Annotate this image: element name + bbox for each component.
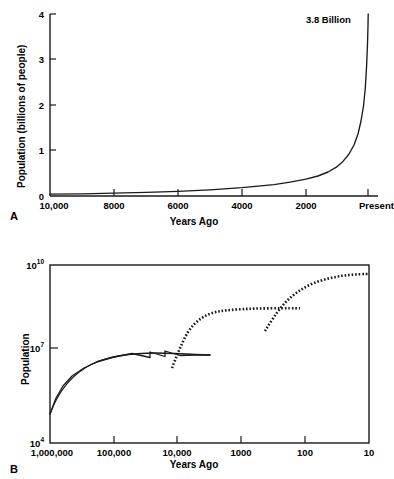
y-tick-label-a-2: 2 xyxy=(30,100,44,111)
hunter-gatherer-curve-b-smooth xyxy=(50,353,210,414)
x-tick-label-a-6000: 6000 xyxy=(167,200,188,211)
y-tick-base-b-1e10: 10 xyxy=(26,260,37,271)
agricultural-revolution-curve-b xyxy=(172,308,300,368)
x-axis-title-a: Years Ago xyxy=(0,216,388,227)
y-tick-label-b-1e7: 107 xyxy=(14,343,44,354)
x-axis-title-b: Years Ago xyxy=(0,459,388,470)
x-tick-label-b-10000: 10,000 xyxy=(162,447,191,458)
x-tick-label-b-10: 10 xyxy=(364,447,375,458)
hunter-gatherer-curve-b xyxy=(50,351,210,414)
x-tick-label-a-2000: 2000 xyxy=(295,200,316,211)
x-tick-label-b-100: 100 xyxy=(297,447,313,458)
plot-frame-b xyxy=(50,265,369,443)
population-curve-a xyxy=(50,14,368,194)
x-tick-label-a-present: Present xyxy=(359,200,394,211)
y-tick-exp-b-1e10: 10 xyxy=(37,258,44,265)
x-tick-label-b-100000: 100,000 xyxy=(97,447,131,458)
chart-b-svg xyxy=(0,240,388,479)
y-tick-exp-b-1e7: 7 xyxy=(40,341,44,348)
y-axis-title-a: Population (billions of people) xyxy=(16,45,27,188)
y-tick-label-b-1e10: 1010 xyxy=(14,260,44,271)
x-tick-label-a-4000: 4000 xyxy=(231,200,252,211)
y-tick-exp-b-1e4: 4 xyxy=(40,436,44,443)
y-axis-title-b: Population xyxy=(20,333,31,385)
y-tick-label-a-1: 1 xyxy=(30,145,44,156)
annotation-peak-population: 3.8 Billion xyxy=(306,14,351,25)
x-tick-label-a-8000: 8000 xyxy=(103,200,124,211)
chart-panel-b: Population 1010 107 104 1,000,000 100,00… xyxy=(0,240,388,479)
industrial-revolution-curve-b xyxy=(265,274,369,331)
y-tick-label-a-4: 4 xyxy=(30,9,44,20)
x-tick-label-a-10000: 10,000 xyxy=(39,200,68,211)
y-tick-base-b-1e7: 10 xyxy=(30,343,41,354)
x-tick-label-b-1000: 1000 xyxy=(230,447,251,458)
chart-panel-a: Population (billions of people) 4 3 2 1 … xyxy=(0,0,388,240)
y-tick-label-a-3: 3 xyxy=(30,54,44,65)
x-tick-label-b-1000000: 1,000,000 xyxy=(31,447,73,458)
